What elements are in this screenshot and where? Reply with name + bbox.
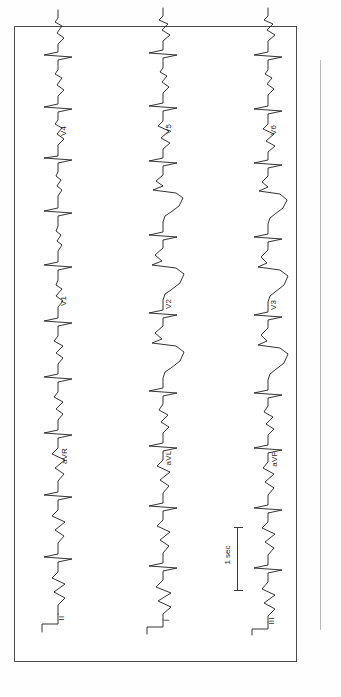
page-margin-rule [320, 60, 321, 630]
ecg-scan-page: V4 V1 aVR II V5 V2 aVL I V6 V3 aVF III 1 [0, 0, 341, 697]
lead-label-v5: V5 [165, 124, 173, 134]
lead-label-v6: V6 [270, 125, 278, 135]
lead-label-v2: V2 [165, 299, 173, 309]
lead-label-iii: III [268, 617, 276, 624]
lead-label-avl: aVL [165, 451, 173, 466]
lead-label-avr: aVR [61, 448, 69, 464]
lead-label-ii: II [58, 616, 66, 621]
ecg-waveform-row-3 [248, 0, 294, 636]
document-title: 12-lead ECG tracing [0, 0, 1, 1]
lead-label-avf: aVF [271, 451, 279, 466]
ecg-waveform-row-2 [143, 0, 189, 636]
ecg-trace-row-2: V5 V2 aVL I [143, 0, 189, 636]
lead-label-v1: V1 [60, 296, 68, 306]
ecg-trace-row-3: V6 V3 aVF III [248, 0, 294, 636]
time-scale-bar [237, 527, 238, 591]
lead-label-v4: V4 [60, 126, 68, 136]
ecg-waveform-row-1 [38, 0, 84, 636]
lead-label-v3: V3 [270, 300, 278, 310]
time-scale-label: 1 sec [224, 545, 232, 564]
lead-label-i: I [163, 619, 171, 621]
ecg-trace-row-1: V4 V1 aVR II [38, 0, 84, 636]
